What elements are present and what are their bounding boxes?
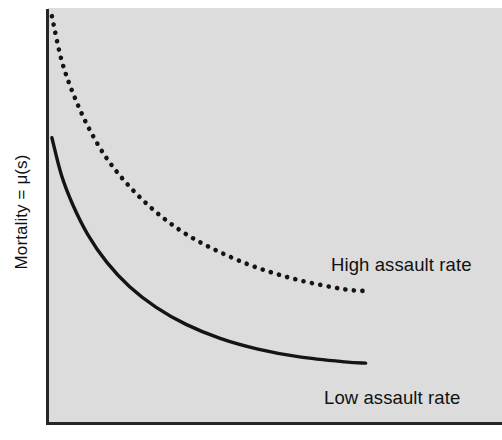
y-axis-title-text: Mortality = μ(s) [12, 155, 32, 270]
y-axis-title: Mortality = μ(s) [0, 0, 44, 424]
series-line-low-assault-rate [52, 138, 366, 363]
series-label-high-assault-rate: High assault rate [331, 254, 472, 276]
chart-figure: Mortality = μ(s) High assault rate Low a… [0, 0, 502, 440]
curves-layer [0, 0, 502, 440]
series-label-low-assault-rate: Low assault rate [324, 387, 460, 409]
